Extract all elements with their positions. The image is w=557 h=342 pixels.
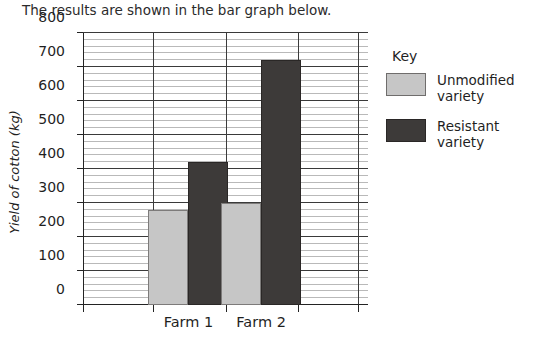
y-axis-tick-label: 0 bbox=[56, 281, 65, 297]
x-axis-tick bbox=[226, 305, 227, 312]
bar-farm-1-unmodified bbox=[148, 210, 188, 305]
y-axis-line bbox=[83, 33, 84, 305]
legend-label-line-1: Resistant bbox=[437, 118, 499, 134]
vertical-gridline bbox=[358, 33, 359, 305]
y-axis-tick bbox=[77, 100, 83, 101]
intro-text: The results are shown in the bar graph b… bbox=[22, 2, 331, 18]
x-axis-tick bbox=[83, 305, 84, 312]
y-axis-tick-label: 100 bbox=[38, 247, 65, 263]
y-axis-tick bbox=[77, 66, 83, 67]
y-axis-title: Yield of cotton (kg) bbox=[7, 110, 22, 234]
y-axis-tick-label: 200 bbox=[38, 213, 65, 229]
y-axis-tick-label: 800 bbox=[38, 9, 65, 25]
plot-area: 0100200300400500600700800 Farm 1Farm 2 bbox=[83, 33, 368, 305]
x-axis-tick bbox=[153, 305, 154, 312]
y-axis-tick-label: 700 bbox=[38, 43, 65, 59]
bar-farm-2-unmodified bbox=[221, 203, 261, 305]
y-axis-tick bbox=[77, 32, 83, 33]
y-axis-tick-label: 500 bbox=[38, 111, 65, 127]
legend-entry: Resistantvariety bbox=[386, 118, 546, 150]
resistant-variety-swatch bbox=[386, 119, 426, 142]
unmodified-variety-swatch bbox=[386, 73, 426, 96]
legend-label-line-2: variety bbox=[437, 134, 499, 150]
x-axis-tick bbox=[358, 305, 359, 312]
legend-entry: Unmodifiedvariety bbox=[386, 72, 546, 104]
legend-entry-label: Unmodifiedvariety bbox=[437, 72, 515, 104]
y-axis-tick-label: 400 bbox=[38, 145, 65, 161]
x-axis-label-farm-2: Farm 2 bbox=[236, 314, 286, 330]
y-axis-tick bbox=[77, 270, 83, 271]
y-axis-tick bbox=[77, 134, 83, 135]
legend-title: Key bbox=[392, 48, 546, 64]
bar-farm-2-resistant bbox=[261, 60, 301, 305]
y-axis-tick bbox=[77, 236, 83, 237]
legend-entry-label: Resistantvariety bbox=[437, 118, 499, 150]
legend-label-line-2: variety bbox=[437, 88, 515, 104]
y-axis-tick bbox=[77, 168, 83, 169]
y-axis-tick-label: 600 bbox=[38, 77, 65, 93]
y-axis-tick bbox=[77, 202, 83, 203]
x-axis-tick bbox=[298, 305, 299, 312]
x-axis-label-farm-1: Farm 1 bbox=[164, 314, 214, 330]
legend-entries: UnmodifiedvarietyResistantvariety bbox=[386, 72, 546, 150]
legend-label-line-1: Unmodified bbox=[437, 72, 515, 88]
y-axis-tick-label: 300 bbox=[38, 179, 65, 195]
legend: Key UnmodifiedvarietyResistantvariety bbox=[386, 48, 546, 164]
